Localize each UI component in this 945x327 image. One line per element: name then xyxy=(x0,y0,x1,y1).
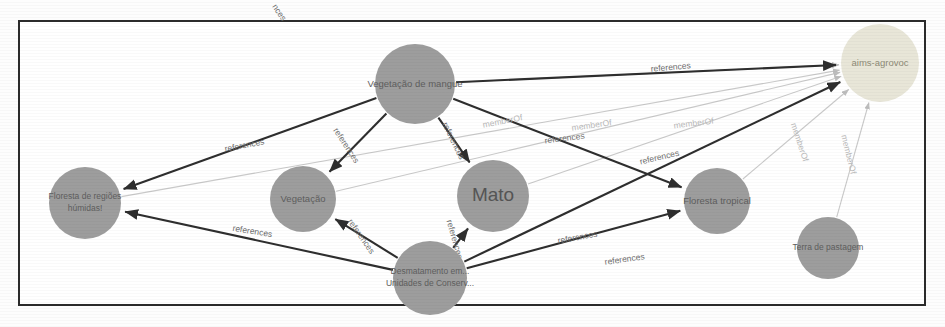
graph-canvas[interactable]: referencesreferencesreferencesreferences… xyxy=(0,0,945,327)
graph-frame xyxy=(18,20,926,306)
